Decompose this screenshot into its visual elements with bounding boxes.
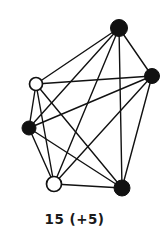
graph-node-hollow: [47, 177, 62, 192]
graph-node-filled: [114, 180, 130, 196]
figure-caption: 15 (+5): [0, 213, 163, 227]
node-layer: [22, 20, 160, 197]
figure-container: 15 (+5): [0, 0, 163, 249]
graph-node-hollow: [30, 78, 43, 91]
graph-edge: [54, 184, 122, 188]
graph-edge: [29, 28, 119, 128]
graph-node-filled: [22, 121, 36, 135]
graph-edge: [36, 28, 119, 84]
graph-edge: [54, 28, 119, 184]
graph-node-filled: [145, 69, 160, 84]
graph-edge: [119, 28, 122, 188]
graph-node-filled: [111, 20, 128, 37]
edge-layer: [29, 28, 152, 188]
